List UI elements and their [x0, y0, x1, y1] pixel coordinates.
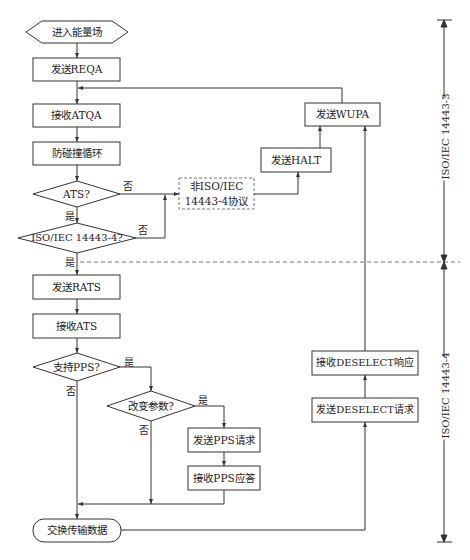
exchange-data-node: 交换传输数据 [33, 519, 121, 542]
send-wupa-node: 发送WUPA [305, 103, 380, 126]
edge-label-ats-no: 否 [123, 178, 133, 193]
recv-pps-node: 接收PPS应答 [188, 466, 260, 490]
edge-label-iso-no: 否 [138, 222, 148, 237]
recv-ats-node: 接收ATS [33, 314, 120, 338]
send-reqa-node: 发送REQA [33, 58, 120, 81]
non-iso-node: 非ISO/IEC 14443-4协议 [179, 178, 254, 209]
change-params-node: 改变参数? [107, 391, 195, 421]
dimension-label-14443-3: ISO/IEC 14443-3 [440, 99, 451, 181]
ats-decision-node: ATS? [33, 181, 120, 207]
pps-support-node: 支持PPS? [33, 353, 120, 381]
edge-label-pps-no: 否 [66, 383, 76, 398]
recv-deselect-node: 接收DESELECT响应 [312, 351, 418, 375]
edge-label-pps-yes: 是 [124, 354, 134, 369]
iso-decision-node: ISO/IEC 14443-4? [18, 223, 136, 253]
edge-label-iso-yes: 是 [65, 254, 75, 269]
edge-label-change-yes: 是 [198, 392, 208, 407]
send-halt-node: 发送HALT [261, 148, 331, 172]
anticollision-node: 防碰撞循环 [33, 142, 120, 165]
non-iso-line1: 非ISO/IEC [190, 179, 243, 193]
send-deselect-node: 发送DESELECT请求 [312, 398, 418, 422]
send-pps-node: 发送PPS请求 [188, 428, 260, 452]
start-node: 进入能量场 [26, 21, 128, 43]
edge-label-change-no: 否 [139, 422, 149, 437]
non-iso-line2: 14443-4协议 [185, 194, 249, 208]
recv-atqa-node: 接收ATQA [33, 104, 120, 127]
edge-label-ats-yes: 是 [65, 208, 75, 223]
dimension-label-14443-4: ISO/IEC 14443-4 [440, 358, 451, 440]
send-rats-node: 发送RATS [33, 275, 120, 299]
